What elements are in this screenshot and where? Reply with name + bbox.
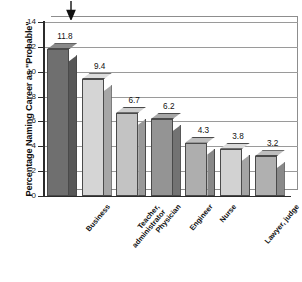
y-tick-label: 10: [18, 68, 36, 76]
bar-front-face: [185, 143, 207, 196]
y-tick-label: 0: [18, 192, 36, 200]
bar-value-label: 3.8: [223, 132, 253, 141]
gridline: [43, 22, 298, 23]
x-axis-label-line: Business: [85, 203, 112, 233]
bar-front-face: [255, 156, 277, 196]
bar-front-face: [47, 49, 69, 196]
bar-value-label: 11.8: [50, 32, 80, 41]
bar-side-face: [104, 85, 112, 196]
x-axis-label: Business: [85, 203, 112, 233]
bar-value-label: 4.3: [188, 126, 218, 135]
x-axis-label: Lawyer, judge: [263, 203, 301, 246]
bar-top-face: [220, 143, 250, 149]
y-tick-label: 2: [18, 167, 36, 175]
bar-front-face: [82, 79, 104, 196]
bar: [255, 150, 285, 196]
y-axis-tick-labels: 14 12 10 8 6 4 2 0: [16, 0, 36, 282]
bar-value-label: 6.7: [119, 96, 149, 105]
bar: [220, 143, 250, 196]
x-axis-label: Nurse: [219, 203, 239, 224]
bar-side-face: [242, 155, 250, 196]
bar: [82, 73, 112, 196]
bar-value-label: 3.2: [258, 139, 288, 148]
bar-top-face: [47, 43, 77, 49]
bar-side-face: [138, 119, 146, 196]
bar: [116, 107, 146, 196]
bar: [185, 137, 215, 196]
x-axis-label-line: Nurse: [219, 203, 239, 224]
y-tick-label: 8: [18, 93, 36, 101]
bar-top-face: [185, 137, 215, 143]
bar: [151, 113, 181, 196]
y-tick-label: 14: [18, 18, 36, 26]
x-axis-label: Engineer: [188, 203, 215, 232]
bar-top-face: [82, 73, 112, 79]
bar-value-label: 9.4: [85, 62, 115, 71]
bar-front-face: [151, 119, 173, 196]
y-tick-label: 4: [18, 142, 36, 150]
x-axis-label-line: Lawyer, judge: [263, 203, 301, 246]
bar-top-face: [255, 150, 285, 156]
bar-side-face: [69, 55, 77, 196]
y-axis-line: [43, 21, 45, 197]
y-tick-label: 12: [18, 43, 36, 51]
bar-side-face: [207, 149, 215, 196]
x-axis-line: [43, 196, 291, 197]
bar: [47, 43, 77, 196]
x-axis-label-line: Engineer: [188, 203, 215, 232]
bar-chart: Percentage Naming Career as "Probable" 1…: [0, 0, 302, 282]
gridline: [43, 47, 298, 48]
bar-front-face: [220, 149, 242, 196]
down-arrow-icon: [66, 1, 76, 20]
bar-top-face: [116, 107, 146, 113]
bar-side-face: [277, 162, 285, 196]
y-tick-label: 6: [18, 117, 36, 125]
bar-top-face: [151, 113, 181, 119]
bar-front-face: [116, 113, 138, 196]
bar-side-face: [173, 125, 181, 196]
bar-value-label: 6.2: [154, 102, 184, 111]
